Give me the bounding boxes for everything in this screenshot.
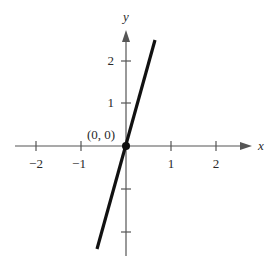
y-axis-label: y: [121, 9, 129, 24]
y-tick-label: 1: [108, 95, 115, 110]
x-axis-label: x: [257, 138, 264, 153]
x-tick-label: 2: [213, 156, 220, 171]
chart-canvas: −2 −1 1 2 2 1 x y (0, 0): [0, 0, 272, 261]
x-tick-label: −2: [29, 156, 43, 171]
x-tick-label: 1: [168, 156, 175, 171]
origin-point-label: (0, 0): [87, 127, 115, 142]
y-axis-arrow-icon: [122, 30, 130, 42]
x-axis-arrow-icon: [240, 142, 252, 150]
x-tick-label: −1: [72, 156, 86, 171]
y-tick-label: 2: [108, 53, 115, 68]
origin-point: [122, 142, 130, 150]
